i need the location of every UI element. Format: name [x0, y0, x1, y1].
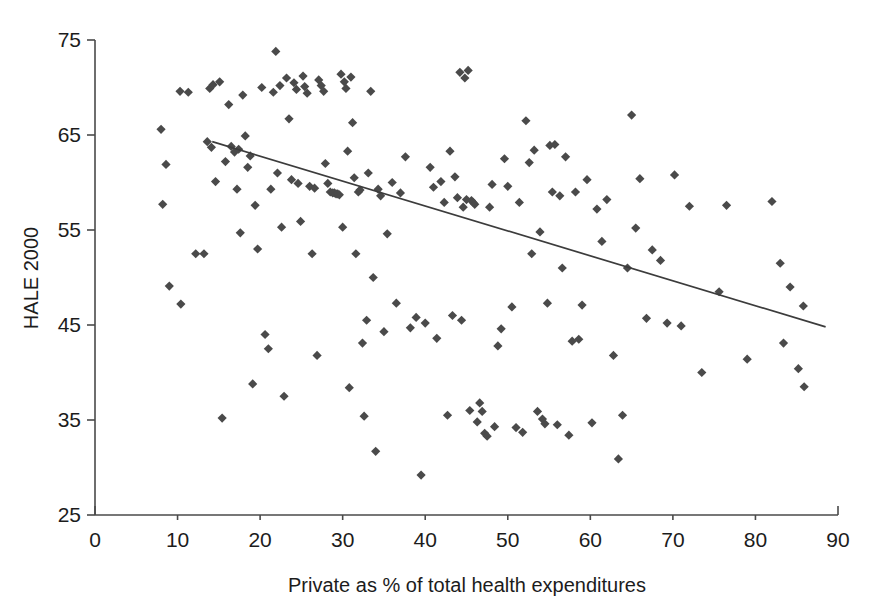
data-point: [453, 193, 462, 202]
data-point: [257, 83, 266, 92]
data-point: [493, 341, 502, 350]
data-point: [553, 420, 562, 429]
x-axis-title: Private as % of total health expenditure…: [288, 574, 646, 596]
data-point: [406, 323, 415, 332]
data-point: [577, 300, 586, 309]
data-point: [264, 344, 273, 353]
data-point: [224, 100, 233, 109]
y-tick-label: 35: [58, 408, 81, 431]
data-points-layer: [156, 47, 808, 480]
data-point: [543, 299, 552, 308]
scatter-plot-figure: 253545556575 0102030405060708090 HALE 20…: [0, 0, 874, 611]
data-point: [273, 168, 282, 177]
data-point: [211, 177, 220, 186]
data-point: [503, 182, 512, 191]
data-point: [448, 311, 457, 320]
data-point: [260, 330, 269, 339]
data-point: [485, 203, 494, 212]
data-point: [587, 418, 596, 427]
data-point: [530, 146, 539, 155]
data-point: [323, 179, 332, 188]
data-point: [275, 81, 284, 90]
data-point: [360, 412, 369, 421]
data-point: [184, 88, 193, 97]
data-point: [221, 157, 230, 166]
data-point: [312, 351, 321, 360]
data-point: [248, 379, 257, 388]
data-point: [800, 382, 809, 391]
data-point: [443, 411, 452, 420]
data-point: [345, 383, 354, 392]
data-point: [548, 187, 557, 196]
data-point: [253, 244, 262, 253]
x-tick-label: 90: [826, 528, 849, 551]
data-point: [743, 355, 752, 364]
y-axis: 253545556575: [58, 28, 95, 526]
x-tick-label: 10: [166, 528, 189, 551]
trend-line: [212, 142, 825, 327]
data-point: [450, 172, 459, 181]
data-point: [786, 282, 795, 291]
trend-line-layer: [212, 142, 825, 327]
data-point: [269, 88, 278, 97]
x-tick-label: 60: [579, 528, 602, 551]
data-point: [351, 249, 360, 258]
y-tick-label: 55: [58, 218, 81, 241]
y-tick-label: 25: [58, 503, 81, 526]
data-point: [308, 249, 317, 258]
data-point: [582, 175, 591, 184]
data-point: [350, 173, 359, 182]
data-point: [241, 131, 250, 140]
data-point: [416, 471, 425, 480]
data-point: [421, 319, 430, 328]
data-point: [429, 183, 438, 192]
data-point: [279, 392, 288, 401]
data-point: [685, 202, 694, 211]
data-point: [527, 249, 536, 258]
data-point: [592, 205, 601, 214]
data-point: [277, 223, 286, 232]
data-point: [396, 188, 405, 197]
data-point: [199, 249, 208, 258]
x-axis: 0102030405060708090: [89, 506, 850, 551]
data-point: [500, 154, 509, 163]
data-point: [779, 338, 788, 347]
data-point: [412, 313, 421, 322]
x-tick-label: 30: [331, 528, 354, 551]
data-point: [426, 163, 435, 172]
data-point: [558, 263, 567, 272]
data-point: [602, 195, 611, 204]
x-tick-label: 0: [89, 528, 101, 551]
y-axis-title: HALE 2000: [20, 227, 42, 329]
data-point: [677, 321, 686, 330]
x-tick-label: 80: [744, 528, 767, 551]
data-point: [191, 249, 200, 258]
data-point: [648, 245, 657, 254]
data-point: [271, 47, 280, 56]
data-point: [371, 447, 380, 456]
data-point: [383, 229, 392, 238]
data-point: [533, 407, 542, 416]
data-point: [343, 147, 352, 156]
data-point: [487, 180, 496, 189]
data-point: [440, 198, 449, 207]
data-point: [475, 398, 484, 407]
data-point: [232, 185, 241, 194]
data-point: [362, 316, 371, 325]
data-point: [767, 197, 776, 206]
data-point: [597, 237, 606, 246]
data-point: [794, 364, 803, 373]
data-point: [358, 338, 367, 347]
data-point: [631, 224, 640, 233]
data-point: [218, 414, 227, 423]
x-tick-label: 20: [248, 528, 271, 551]
data-point: [366, 87, 375, 96]
data-point: [266, 185, 275, 194]
data-point: [156, 125, 165, 134]
data-point: [656, 256, 665, 265]
data-point: [175, 87, 184, 96]
data-point: [670, 170, 679, 179]
x-tick-label: 50: [496, 528, 519, 551]
data-point: [165, 281, 174, 290]
x-tick-label: 40: [414, 528, 437, 551]
